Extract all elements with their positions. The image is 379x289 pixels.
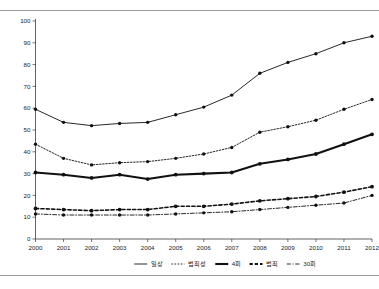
series-point (146, 160, 149, 163)
y-tick-label: 60 (24, 104, 31, 111)
series-point (370, 35, 373, 38)
series-point (286, 206, 289, 209)
series-point (342, 190, 346, 194)
series-point (258, 72, 261, 75)
y-tick-label: 90 (24, 39, 31, 46)
legend-label: 범죄 (266, 260, 278, 268)
series-point (370, 194, 373, 197)
series-point (342, 108, 345, 111)
x-tick-label: 2003 (113, 244, 127, 251)
series-point (118, 213, 121, 216)
y-tick-label: 100 (20, 17, 31, 24)
series-point (34, 171, 38, 175)
series-point (286, 197, 290, 201)
series-point (202, 152, 205, 155)
x-tick-label: 2004 (141, 244, 155, 251)
series-point (174, 173, 178, 177)
x-tick-label: 2007 (225, 244, 239, 251)
series-point (62, 173, 66, 177)
series-point (230, 146, 233, 149)
series-point (62, 208, 66, 212)
y-tick-label: 20 (24, 192, 31, 199)
series-point (342, 201, 345, 204)
series-point (286, 61, 289, 64)
series-point (258, 130, 261, 133)
series-point (90, 213, 93, 216)
series-point (314, 195, 318, 199)
series-point (258, 162, 262, 166)
series-point (90, 124, 93, 127)
y-tick-label: 30 (24, 170, 31, 177)
series-point (230, 202, 234, 206)
series-point (230, 93, 233, 96)
series-point (202, 211, 205, 214)
series-point (258, 199, 262, 203)
x-tick-label: 2008 (253, 244, 267, 251)
series-1 (34, 35, 374, 128)
series-point (230, 210, 233, 213)
legend-item-4: 범죄 (250, 260, 278, 268)
x-tick-label: 2011 (337, 244, 351, 251)
series-point (286, 125, 289, 128)
series-point (342, 142, 346, 146)
x-tick-label: 2000 (29, 244, 43, 251)
series-point (174, 113, 177, 116)
series-point (370, 132, 374, 136)
series-point (34, 212, 37, 215)
series-point (90, 209, 94, 213)
series-point (202, 172, 206, 176)
series-point (62, 121, 65, 124)
legend-label: 30회 (303, 260, 316, 268)
bottom-divider-rule (0, 275, 379, 276)
legend-item-2: 범죄성 (171, 260, 206, 268)
series-point (314, 204, 317, 207)
series-point (202, 204, 206, 208)
x-tick-label: 2010 (309, 244, 323, 251)
series-point (118, 173, 122, 177)
series-point (34, 142, 37, 145)
series-point (230, 171, 234, 175)
top-divider-rule (0, 10, 379, 11)
series-point (118, 208, 122, 212)
y-tick-label: 40 (24, 148, 31, 155)
series-point (314, 152, 318, 156)
series-point (146, 213, 149, 216)
legend-item-1: 일상 (134, 260, 163, 267)
series-point (174, 157, 177, 160)
series-4 (34, 185, 374, 213)
series-point (146, 121, 149, 124)
chart-page: 0102030405060708090100200020012002200320… (0, 0, 379, 289)
legend-label: 일상 (151, 260, 163, 267)
series-point (62, 157, 65, 160)
legend-label: 4회 (232, 260, 241, 268)
series-point (342, 41, 345, 44)
x-tick-label: 2009 (281, 244, 295, 251)
legend-item-3: 4회 (215, 260, 241, 268)
series-point (90, 176, 94, 180)
legend-item-5: 30회 (287, 260, 316, 268)
series-point (62, 213, 65, 216)
series-point (34, 108, 37, 111)
series-point (258, 208, 261, 211)
x-tick-label: 2006 (197, 244, 211, 251)
series-line (36, 36, 373, 125)
line-chart-figure: 0102030405060708090100200020012002200320… (0, 12, 379, 274)
y-tick-label: 80 (24, 61, 31, 68)
x-tick-label: 2001 (57, 244, 71, 251)
series-point (118, 122, 121, 125)
y-tick-label: 10 (24, 213, 31, 220)
series-point (174, 212, 177, 215)
series-point (286, 158, 290, 162)
x-tick-label: 2002 (85, 244, 99, 251)
series-point (370, 98, 373, 101)
series-point (314, 52, 317, 55)
series-3 (34, 132, 374, 180)
legend-label: 범죄성 (188, 260, 206, 268)
series-point (34, 207, 38, 211)
y-tick-label: 0 (27, 235, 31, 242)
series-point (370, 185, 374, 189)
series-point (202, 105, 205, 108)
series-point (314, 118, 317, 121)
x-tick-label: 2012 (365, 244, 379, 251)
series-point (146, 177, 150, 181)
